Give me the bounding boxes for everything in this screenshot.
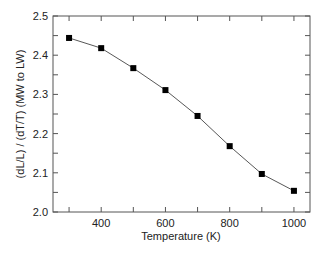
x-tick-label: 1000 xyxy=(282,217,306,229)
data-point-marker xyxy=(98,45,104,51)
x-tick-label: 800 xyxy=(221,217,239,229)
y-tick-label: 2.4 xyxy=(33,49,48,61)
y-tick-label: 2.0 xyxy=(33,206,48,218)
y-tick-label: 2.2 xyxy=(33,128,48,140)
x-tick-label: 400 xyxy=(92,217,110,229)
x-axis-title: Temperature (K) xyxy=(141,230,220,242)
x-tick-label: 600 xyxy=(156,217,174,229)
y-tick-label: 2.3 xyxy=(33,88,48,100)
y-tick-labels: 2.02.12.22.32.42.5 xyxy=(33,10,48,218)
data-point-marker xyxy=(259,171,265,177)
data-point-marker xyxy=(195,113,201,119)
line-chart: 2.02.12.22.32.42.5 4006008001000 Tempera… xyxy=(0,0,325,255)
data-point-marker xyxy=(227,143,233,149)
data-point-marker xyxy=(130,65,136,71)
y-axis-title: (dL/L) / (dT/T) (MW to LW) xyxy=(14,50,26,179)
data-series xyxy=(66,35,297,194)
data-point-marker xyxy=(162,87,168,93)
y-tick-label: 2.5 xyxy=(33,10,48,22)
data-point-marker xyxy=(66,35,72,41)
data-point-marker xyxy=(291,188,297,194)
y-tick-label: 2.1 xyxy=(33,167,48,179)
x-tick-labels: 4006008001000 xyxy=(92,217,306,229)
